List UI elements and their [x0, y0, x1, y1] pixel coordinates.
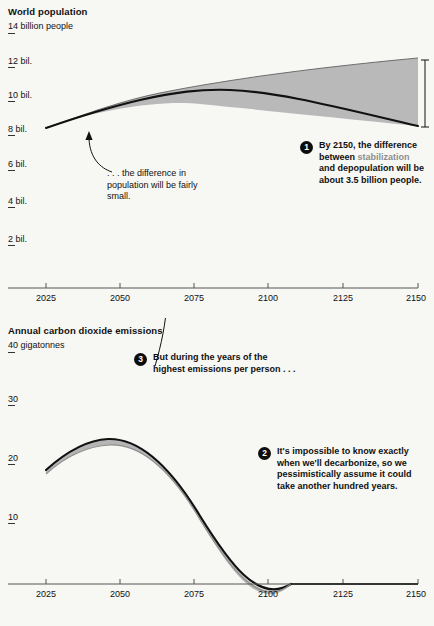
- x-axis-label-2025-top: 2025: [26, 293, 66, 303]
- annual-co2-emissions-chart: Annual carbon dioxide emissions 40 gigat…: [0, 318, 434, 626]
- y-axis-tick-10: 10 bil.: [8, 90, 32, 102]
- y-axis-tick-10: 10: [8, 512, 18, 524]
- y-axis-tick-dash-40: [8, 352, 15, 353]
- callout-1-line3-tail: will be: [394, 163, 424, 173]
- x-axis-label-2050-top: 2050: [100, 293, 140, 303]
- chart-title-world-population: World population: [8, 6, 88, 17]
- callout-2-line3: pessimistically assume it could: [277, 469, 412, 479]
- y-axis-tick-dash-4: [8, 207, 15, 208]
- y-axis-unit-label-bottom: 40 gigatonnes: [8, 340, 65, 350]
- x-axis-label-2150-bottom: 2150: [396, 589, 434, 599]
- emissions-upper-curve: [46, 439, 291, 589]
- y-axis-tick-dash-10: [8, 101, 15, 102]
- callout-1-line3-lead: and: [319, 163, 338, 173]
- x-axis-label-2075-top: 2075: [174, 293, 214, 303]
- emissions-band-area: [46, 439, 291, 594]
- y-axis-tick-dash-2: [8, 245, 15, 246]
- y-axis-tick-label-6: 6 bil.: [8, 159, 27, 169]
- y-axis-tick-label-4: 4 bil.: [8, 196, 27, 206]
- callout-2-text: It's impossible to know exactly when we'…: [277, 446, 412, 492]
- callout-3-text: But during the years of the highest emis…: [153, 352, 296, 375]
- y-axis-tick-label-30: 30: [8, 394, 18, 404]
- callout-1-line1: By 2150, the difference: [319, 140, 417, 150]
- callout-1: 1 By 2150, the difference between stabil…: [300, 140, 432, 186]
- x-axis-top: [8, 283, 418, 288]
- callout-3-line2: highest emissions per person . . .: [153, 364, 296, 374]
- callout-2-line2: when we'll decarbonize, so we: [277, 458, 407, 468]
- callout-1-depopulation: depopulation: [338, 163, 395, 173]
- x-axis-bottom: [8, 579, 418, 584]
- y-axis-tick-label-8: 8 bil.: [8, 124, 27, 134]
- emissions-lower-curve: [46, 445, 291, 592]
- callout-2-line1: It's impossible to know exactly: [277, 446, 409, 456]
- callout-1-line2-lead: between: [319, 152, 358, 162]
- annotation-note-population-difference: . . . the difference in population will …: [107, 168, 217, 203]
- x-axis-label-2050-bottom: 2050: [100, 589, 140, 599]
- callout-3: 3 But during the years of the highest em…: [134, 352, 334, 375]
- y-axis-tick-dash-20: [8, 464, 15, 465]
- y-axis-tick-dash-10-bottom: [8, 523, 15, 524]
- callout-1-stabilization: stabilization: [358, 152, 410, 162]
- y-axis-tick-4: 4 bil.: [8, 196, 27, 208]
- y-axis-unit-label-top: 14 billion people: [8, 21, 73, 31]
- callout-1-text: By 2150, the difference between stabiliz…: [319, 140, 424, 186]
- annotation-arrow-small: [85, 131, 112, 172]
- y-axis-tick-label-10-bottom: 10: [8, 512, 18, 522]
- callout-2-line4: take another hundred years.: [277, 481, 398, 491]
- x-axis-label-2125-bottom: 2125: [323, 589, 363, 599]
- difference-bracket: [421, 60, 429, 127]
- x-axis-label-2125-top: 2125: [323, 293, 363, 303]
- depopulation-curve: [46, 90, 418, 128]
- y-axis-tick-2: 2 bil.: [8, 234, 27, 246]
- y-axis-tick-dash-8: [8, 135, 15, 136]
- callout-1-line4: about 3.5 billion people.: [319, 175, 422, 185]
- y-axis-tick-6: 6 bil.: [8, 159, 27, 171]
- y-axis-tick-dash-30: [8, 405, 15, 406]
- y-axis-tick-label-2: 2 bil.: [8, 234, 27, 244]
- y-axis-tick-dash-14: [8, 33, 15, 34]
- y-axis-tick-label-12: 12 bil.: [8, 56, 32, 66]
- callout-3-line1: But during the years of the: [153, 352, 268, 362]
- stabilization-curve: [46, 58, 418, 128]
- x-axis-label-2075-bottom: 2075: [174, 589, 214, 599]
- world-population-chart: World population 14 billion people 12 bi…: [0, 0, 434, 318]
- x-axis-label-2100-bottom: 2100: [248, 589, 288, 599]
- callout-2: 2 It's impossible to know exactly when w…: [258, 446, 430, 492]
- chart-title-annual-co2: Annual carbon dioxide emissions: [8, 325, 163, 336]
- x-axis-label-2100-top: 2100: [248, 293, 288, 303]
- y-axis-tick-20: 20: [8, 453, 18, 465]
- population-band-area: [46, 58, 418, 128]
- x-axis-label-2150-top: 2150: [396, 293, 434, 303]
- y-axis-tick-dash-6: [8, 170, 15, 171]
- callout-1-bullet: 1: [300, 141, 313, 154]
- y-axis-tick-label-20: 20: [8, 453, 18, 463]
- y-axis-tick-8: 8 bil.: [8, 124, 27, 136]
- y-axis-tick-30: 30: [8, 394, 18, 406]
- x-axis-label-2025-bottom: 2025: [26, 589, 66, 599]
- y-axis-tick-12: 12 bil.: [8, 56, 32, 68]
- y-axis-tick-dash-12: [8, 67, 15, 68]
- callout-3-bullet: 3: [134, 353, 147, 366]
- y-axis-tick-label-10: 10 bil.: [8, 90, 32, 100]
- callout-2-bullet: 2: [258, 447, 271, 460]
